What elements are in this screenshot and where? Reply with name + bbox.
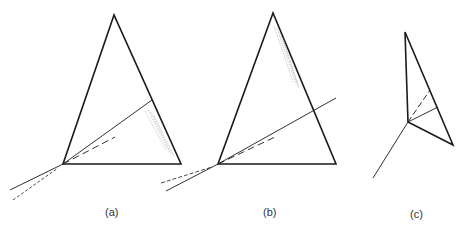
panel-label-c: (c) xyxy=(410,208,423,220)
prism-a xyxy=(63,15,181,164)
incident-dashed-a xyxy=(13,168,58,200)
diagram-canvas: (a) (b) (c) xyxy=(0,0,465,229)
panel-b: (b) xyxy=(161,13,336,218)
refracted-ray-a xyxy=(63,100,152,164)
prism-c xyxy=(405,32,453,145)
panel-a: (a) xyxy=(10,15,181,218)
incident-ray-c xyxy=(373,122,408,178)
refracted-ray-b xyxy=(218,98,336,164)
refracted-ray-c xyxy=(408,107,438,122)
dashed-ray-c xyxy=(408,90,430,122)
panel-c: (c) xyxy=(373,32,453,220)
hatching-b xyxy=(274,26,299,88)
panel-label-a: (a) xyxy=(105,206,118,218)
incident-ray-a xyxy=(10,164,63,190)
incident-ray-b xyxy=(166,164,218,191)
panel-label-b: (b) xyxy=(263,206,276,218)
